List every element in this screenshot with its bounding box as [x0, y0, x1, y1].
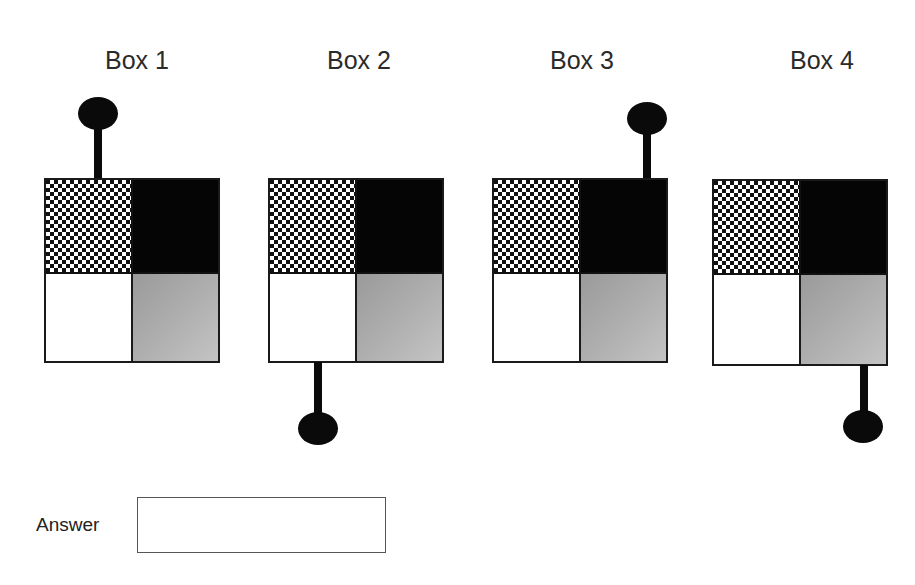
knob-stem — [314, 362, 322, 418]
black-quadrant — [801, 181, 886, 275]
gray-quadrant — [133, 274, 218, 361]
white-quadrant — [46, 274, 133, 361]
checker-quadrant — [270, 180, 357, 274]
knob-stem — [94, 120, 102, 180]
gray-quadrant — [801, 275, 886, 364]
box-2-label: Box 2 — [299, 46, 419, 75]
box-1-label: Box 1 — [77, 46, 197, 75]
checker-quadrant — [46, 180, 133, 274]
box-3-grid — [492, 178, 668, 363]
gray-quadrant — [581, 274, 666, 361]
gray-quadrant — [357, 274, 442, 361]
checker-quadrant — [494, 180, 581, 274]
knob-icon — [298, 412, 338, 445]
box-2-grid — [268, 178, 444, 363]
answer-input[interactable] — [137, 497, 386, 553]
box-3-label: Box 3 — [522, 46, 642, 75]
white-quadrant — [270, 274, 357, 361]
knob-stem — [643, 125, 651, 180]
black-quadrant — [133, 180, 218, 274]
black-quadrant — [581, 180, 666, 274]
knob-icon — [843, 410, 883, 443]
checker-quadrant — [714, 181, 801, 275]
box-4-label: Box 4 — [762, 46, 882, 75]
answer-label: Answer — [36, 514, 99, 536]
box-1-grid — [44, 178, 220, 363]
black-quadrant — [357, 180, 442, 274]
white-quadrant — [494, 274, 581, 361]
box-4-grid — [712, 179, 888, 366]
white-quadrant — [714, 275, 801, 364]
